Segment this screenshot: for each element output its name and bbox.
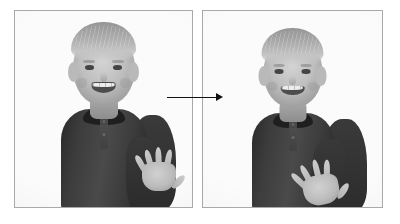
mouth [91,82,116,92]
eye-right [302,69,310,73]
panel-before [14,10,193,208]
arrow-shaft-icon [167,97,216,98]
photo-after [203,11,382,207]
nose [100,72,107,81]
cheek-right [308,82,317,91]
hand-left [142,141,176,191]
panel-after [202,10,383,208]
figure-root [0,0,400,224]
head [73,27,135,105]
shirt-placket [100,115,108,149]
eyebrow-left [273,64,285,67]
eyebrow-right [112,60,124,63]
ear-left [259,66,270,85]
palm-left [142,162,176,191]
eye-left [275,69,283,73]
hair [261,28,324,66]
head [263,33,322,107]
cheek-left [268,82,277,91]
arrow-head-icon [216,93,223,101]
ear-right [128,62,139,82]
nose [289,76,296,85]
eyebrow-left [83,60,95,63]
teeth [93,83,115,88]
teeth [282,86,303,90]
eye-left [85,65,94,70]
cheek-right [120,78,130,87]
photo-before [15,11,192,207]
cheek-left [77,78,87,87]
eyebrow-right [300,64,312,67]
mouth [281,86,305,96]
ear-right [316,66,327,85]
eye-right [113,65,122,70]
hair [71,22,137,63]
shirt-placket [289,119,297,151]
